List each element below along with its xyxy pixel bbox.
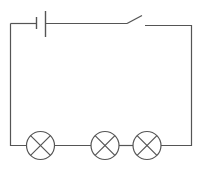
- switch-icon: [127, 16, 142, 24]
- lamp-icon: [133, 132, 161, 160]
- battery-icon: [37, 11, 46, 37]
- circuit-diagram: [0, 0, 200, 171]
- lamp-icon: [27, 132, 55, 160]
- lamp-icon: [91, 132, 119, 160]
- switch-blade: [127, 16, 142, 24]
- right-wire: [145, 26, 192, 146]
- left-wire: [11, 24, 27, 146]
